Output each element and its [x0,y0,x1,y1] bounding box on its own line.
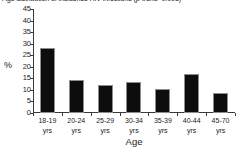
y-tick-mark [30,90,33,91]
x-axis-tick-labels: 18-19yrs20-24yrs25-29yrs30-34yrs35-39yrs… [33,116,235,138]
x-tick-label: 18-19yrs [33,116,62,135]
plot-area [33,9,235,113]
x-tick-label: 35-39yrs [148,116,177,135]
y-tick-mark [30,55,33,56]
bar [69,80,84,113]
x-tick-label: 25-29yrs [91,116,120,135]
y-tick-label: 25 [14,52,31,60]
y-tick-mark [30,21,33,22]
bar [40,48,55,113]
y-tick-label: 30 [14,40,31,48]
x-tick-label: 20-24yrs [62,116,91,135]
x-tick-label: 45-70yrs [206,116,235,135]
y-tick-mark [30,67,33,68]
y-axis-tick-labels: 051015202530354045 [14,9,31,113]
y-tick-label: 45 [14,5,31,12]
x-tick-label: 30-34yrs [120,116,149,135]
bar [126,82,141,113]
y-tick-label: 35 [14,29,31,37]
bar [184,74,199,113]
x-tick-label: 40-44yrs [177,116,206,135]
bar [98,85,113,113]
bar-series [33,9,235,113]
bar [155,89,170,113]
x-tick-mark [235,113,236,116]
bar [213,93,228,113]
x-axis-label: Age [33,136,235,147]
chart-title: Age distribution of incidence HIV infect… [2,0,240,3]
y-tick-label: 5 [14,98,31,106]
y-tick-label: 20 [14,63,31,71]
y-tick-mark [30,32,33,33]
y-tick-label: 10 [14,86,31,94]
y-tick-label: 40 [14,17,31,25]
y-axis-label: % [4,60,12,70]
y-tick-label: 0 [14,109,31,117]
bar-chart-figure: Age distribution of incidence HIV infect… [0,0,242,152]
y-tick-mark [30,9,33,10]
y-tick-mark [30,78,33,79]
y-tick-label: 15 [14,75,31,83]
y-tick-mark [30,101,33,102]
y-tick-mark [30,44,33,45]
